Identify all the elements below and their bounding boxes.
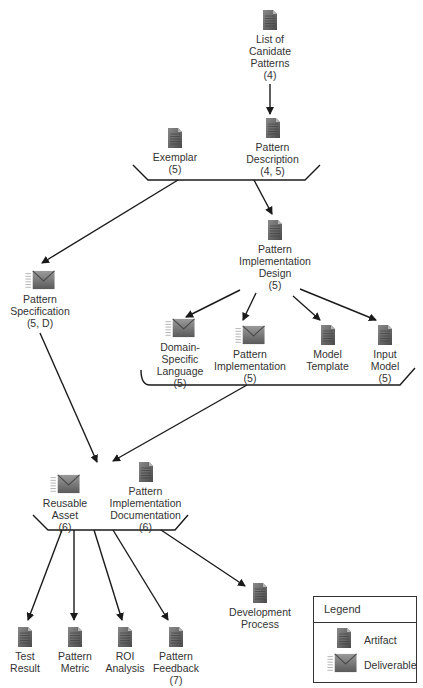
node-label: Model Template [295,348,360,372]
edge-group3-to-development-process [161,530,245,586]
node-exemplar: Exemplar (5) [140,128,210,175]
node-label: Reusable Asset (6) [35,497,95,533]
node-test-result: Test Result [5,627,45,674]
node-pattern-specification: Pattern Specification (5, D) [0,270,80,329]
artifact-icon [253,583,267,603]
legend-title: Legend [314,597,416,623]
edge-group2-to-group3 [113,385,247,461]
edge-design-to-model-template [293,296,320,320]
edge-design-to-input-model [300,289,376,320]
node-reusable-asset: Reusable Asset (6) [35,474,95,533]
node-pattern-implementation-documentation: Pattern Implementation Documentation (6) [98,462,193,533]
artifact-icon [268,220,282,240]
node-label: List of Canidate Patterns (4) [230,33,310,81]
node-pattern-implementation: Pattern Implementation (5) [205,325,295,384]
node-label: ROI Analysis [100,650,150,674]
edge-design-to-pattern-impl [243,293,256,320]
node-pattern-description: Pattern Description (4, 5) [235,118,310,177]
artifact-icon [168,128,182,148]
artifact-icon [321,325,335,345]
node-label: Pattern Implementation (5) [205,348,295,384]
node-label: Test Result [5,650,45,674]
edge-group3-to-pattern-feedback [113,530,168,620]
legend-box: Legend Artifact Deliverable [313,596,417,683]
artifact-icon [337,628,351,648]
node-roi-analysis: ROI Analysis [100,627,150,674]
node-label: Development Process [225,606,295,630]
node-label: Pattern Metric [52,650,98,674]
node-label: Pattern Implementation Design (5) [225,243,325,291]
node-development-process: Development Process [225,583,295,630]
edge-design-to-dsl [186,290,240,317]
artifact-icon [118,627,132,647]
deliverable-icon [24,270,56,290]
node-input-model: Input Model (5) [360,325,410,384]
node-label: Exemplar (5) [140,151,210,175]
edge-group3-to-test-result [28,530,62,620]
edge-specification-to-group3 [40,333,97,462]
artifact-icon [18,627,32,647]
deliverable-icon [164,318,196,338]
node-label: Pattern Specification (5, D) [0,293,80,329]
deliverable-icon [234,325,266,345]
edge-group1-to-impl-design [254,180,272,214]
node-pattern-implementation-design: Pattern Implementation Design (5) [225,220,325,291]
artifact-icon [68,627,82,647]
legend-item-label: Deliverable [364,659,417,671]
deliverable-icon [326,653,358,673]
deliverable-icon [49,474,81,494]
legend-item-artifact: Artifact [314,628,416,652]
legend-item-deliverable: Deliverable [314,653,416,677]
edge-group3-to-roi-analysis [94,530,122,620]
node-label: Pattern Description (4, 5) [235,141,310,177]
artifact-icon [263,10,277,30]
artifact-icon [378,325,392,345]
edge-group1-to-specification [42,180,178,263]
legend-item-label: Artifact [364,634,397,646]
node-model-template: Model Template [295,325,360,372]
node-list-candidate-patterns: List of Canidate Patterns (4) [230,10,310,81]
node-pattern-feedback: Pattern Feedback (7) [148,627,204,686]
node-pattern-metric: Pattern Metric [52,627,98,674]
node-label: Pattern Feedback (7) [148,650,204,686]
artifact-icon [169,627,183,647]
artifact-icon [139,462,153,482]
node-label: Pattern Implementation Documentation (6) [98,485,193,533]
artifact-icon [266,118,280,138]
node-label: Input Model (5) [360,348,410,384]
